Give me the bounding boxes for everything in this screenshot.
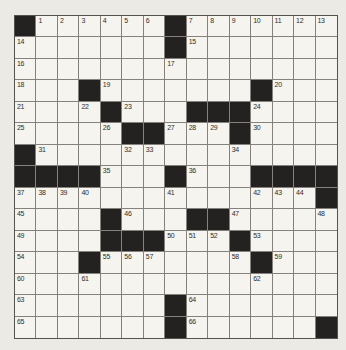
grid-cell[interactable]: 27 — [165, 123, 186, 144]
grid-cell[interactable]: 62 — [251, 274, 272, 295]
grid-cell[interactable] — [294, 209, 315, 230]
grid-cell[interactable] — [294, 59, 315, 80]
grid-cell[interactable] — [101, 145, 122, 166]
grid-cell[interactable]: 55 — [101, 252, 122, 273]
grid-cell[interactable] — [58, 59, 79, 80]
grid-cell[interactable] — [294, 102, 315, 123]
grid-cell[interactable] — [122, 317, 143, 338]
grid-cell[interactable]: 46 — [122, 209, 143, 230]
grid-cell[interactable]: 56 — [122, 252, 143, 273]
grid-cell[interactable]: 54 — [15, 252, 36, 273]
grid-cell[interactable] — [36, 295, 57, 316]
grid-cell[interactable] — [230, 166, 251, 187]
grid-cell[interactable] — [316, 295, 337, 316]
grid-cell[interactable] — [144, 59, 165, 80]
grid-cell[interactable]: 48 — [316, 209, 337, 230]
grid-cell[interactable]: 40 — [79, 188, 100, 209]
grid-cell[interactable] — [316, 231, 337, 252]
grid-cell[interactable] — [101, 295, 122, 316]
grid-cell[interactable]: 16 — [15, 59, 36, 80]
grid-cell[interactable]: 65 — [15, 317, 36, 338]
grid-cell[interactable] — [294, 274, 315, 295]
grid-cell[interactable]: 21 — [15, 102, 36, 123]
grid-cell[interactable] — [251, 145, 272, 166]
grid-cell[interactable] — [79, 145, 100, 166]
grid-cell[interactable]: 41 — [165, 188, 186, 209]
grid-cell[interactable] — [187, 274, 208, 295]
grid-cell[interactable]: 4 — [101, 16, 122, 37]
grid-cell[interactable]: 8 — [208, 16, 229, 37]
grid-cell[interactable] — [230, 295, 251, 316]
grid-cell[interactable] — [36, 274, 57, 295]
grid-cell[interactable] — [294, 123, 315, 144]
grid-cell[interactable] — [273, 102, 294, 123]
grid-cell[interactable]: 12 — [294, 16, 315, 37]
grid-cell[interactable] — [36, 317, 57, 338]
grid-cell[interactable]: 53 — [251, 231, 272, 252]
grid-cell[interactable] — [79, 59, 100, 80]
grid-cell[interactable] — [36, 102, 57, 123]
grid-cell[interactable]: 33 — [144, 145, 165, 166]
grid-cell[interactable] — [273, 145, 294, 166]
grid-cell[interactable] — [251, 37, 272, 58]
grid-cell[interactable] — [187, 59, 208, 80]
grid-cell[interactable] — [208, 188, 229, 209]
grid-cell[interactable] — [101, 274, 122, 295]
grid-cell[interactable] — [122, 166, 143, 187]
grid-cell[interactable] — [187, 145, 208, 166]
grid-cell[interactable] — [273, 123, 294, 144]
grid-cell[interactable] — [144, 317, 165, 338]
grid-cell[interactable]: 13 — [316, 16, 337, 37]
grid-cell[interactable]: 61 — [79, 274, 100, 295]
grid-cell[interactable] — [230, 317, 251, 338]
grid-cell[interactable]: 37 — [15, 188, 36, 209]
grid-cell[interactable] — [187, 188, 208, 209]
grid-cell[interactable] — [251, 317, 272, 338]
grid-cell[interactable]: 30 — [251, 123, 272, 144]
grid-cell[interactable] — [208, 274, 229, 295]
grid-cell[interactable] — [230, 274, 251, 295]
grid-cell[interactable] — [122, 37, 143, 58]
grid-cell[interactable] — [273, 209, 294, 230]
grid-cell[interactable] — [79, 295, 100, 316]
grid-cell[interactable] — [251, 59, 272, 80]
grid-cell[interactable] — [58, 295, 79, 316]
grid-cell[interactable] — [316, 37, 337, 58]
grid-cell[interactable]: 36 — [187, 166, 208, 187]
grid-cell[interactable]: 2 — [58, 16, 79, 37]
grid-cell[interactable]: 58 — [230, 252, 251, 273]
grid-cell[interactable] — [294, 231, 315, 252]
grid-cell[interactable] — [208, 252, 229, 273]
grid-cell[interactable]: 11 — [273, 16, 294, 37]
grid-cell[interactable] — [230, 188, 251, 209]
grid-cell[interactable]: 29 — [208, 123, 229, 144]
grid-cell[interactable] — [144, 274, 165, 295]
grid-cell[interactable]: 34 — [230, 145, 251, 166]
grid-cell[interactable] — [122, 188, 143, 209]
grid-cell[interactable]: 5 — [122, 16, 143, 37]
grid-cell[interactable]: 7 — [187, 16, 208, 37]
grid-cell[interactable] — [122, 295, 143, 316]
grid-cell[interactable]: 3 — [79, 16, 100, 37]
grid-cell[interactable] — [230, 37, 251, 58]
grid-cell[interactable] — [273, 37, 294, 58]
grid-cell[interactable] — [36, 59, 57, 80]
grid-cell[interactable] — [208, 59, 229, 80]
grid-cell[interactable]: 52 — [208, 231, 229, 252]
grid-cell[interactable] — [165, 252, 186, 273]
grid-cell[interactable]: 6 — [144, 16, 165, 37]
grid-cell[interactable] — [58, 252, 79, 273]
grid-cell[interactable] — [165, 80, 186, 101]
grid-cell[interactable] — [144, 80, 165, 101]
grid-cell[interactable] — [316, 80, 337, 101]
grid-cell[interactable] — [208, 37, 229, 58]
grid-cell[interactable] — [316, 145, 337, 166]
grid-cell[interactable]: 17 — [165, 59, 186, 80]
grid-cell[interactable] — [208, 166, 229, 187]
grid-cell[interactable] — [122, 59, 143, 80]
grid-cell[interactable]: 31 — [36, 145, 57, 166]
grid-cell[interactable] — [230, 80, 251, 101]
grid-cell[interactable] — [101, 188, 122, 209]
grid-cell[interactable]: 66 — [187, 317, 208, 338]
grid-cell[interactable] — [316, 274, 337, 295]
